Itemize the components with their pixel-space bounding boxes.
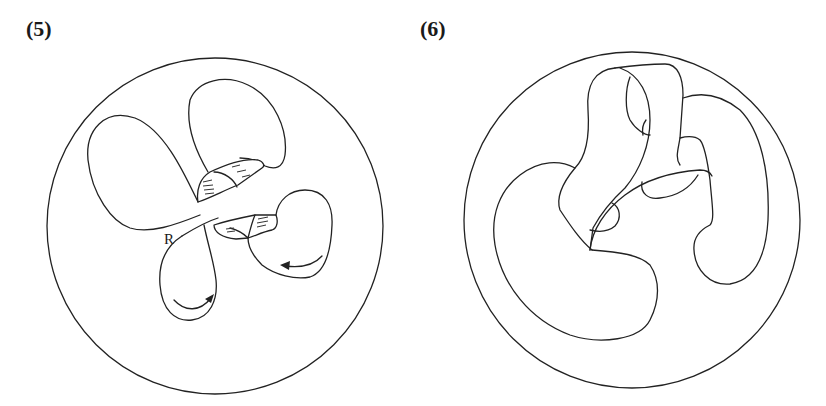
panel-5-arrowhead-right — [280, 261, 290, 270]
panel-6-right-band — [680, 95, 768, 284]
panel-5-arrow-right — [286, 256, 322, 267]
panel-6-inner-bump-right — [642, 175, 698, 198]
panel-6-ribbon-top — [615, 64, 683, 165]
panel-5-arrow-bottom — [174, 298, 211, 309]
diagram-svg — [0, 0, 826, 406]
panel-5-upper-left-lobe — [88, 116, 200, 230]
panel-5-top-lobe — [189, 80, 286, 172]
panel-6-tiny-arc — [643, 120, 646, 135]
panel-6-ribbon-inner-small — [626, 77, 650, 135]
panel-6-boundary-circle — [464, 52, 800, 388]
panel-5-arrowhead-bottom — [205, 294, 214, 303]
panel-5-drawing — [47, 58, 383, 394]
panel-6-drawing — [464, 52, 800, 388]
panel-5-bottom-lobe — [160, 225, 217, 320]
panel-5-band-lower-edge — [182, 218, 218, 236]
panel-6-inner-bump-left — [590, 203, 619, 231]
panel-6-ribbon-left — [559, 68, 615, 250]
